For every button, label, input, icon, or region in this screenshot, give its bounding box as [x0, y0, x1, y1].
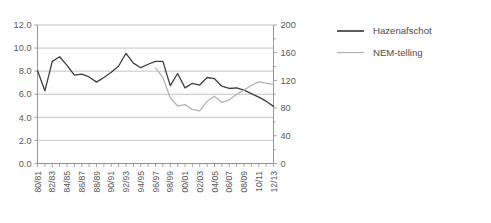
x-axis-tick-label: 86/87: [77, 171, 87, 193]
legend-label: NEM-telling: [373, 47, 423, 58]
x-axis-tick-label: 84/85: [62, 171, 72, 193]
x-axis-tick-label: 02/03: [195, 171, 205, 193]
x-axis-tick-label: 04/05: [210, 171, 220, 193]
x-axis-tick-label: 08/09: [239, 171, 249, 193]
x-axis-tick-label: 06/07: [224, 171, 234, 193]
x-axis-tick-label: 00/01: [180, 171, 190, 193]
right-axis-tick-labels: 04080120160200: [281, 20, 296, 169]
x-axis-tick-label: 82/83: [47, 171, 57, 193]
chart-legend: HazenafschotNEM-telling: [337, 25, 432, 58]
chart-container: 0.02.04.06.08.010.012.0 04080120160200 8…: [0, 0, 491, 223]
series-line-hazenafschot: [38, 53, 274, 106]
x-axis-tick-label: 92/93: [121, 171, 131, 193]
right-axis-tick-label: 40: [281, 131, 291, 141]
left-axis-tick-label: 6.0: [19, 89, 32, 99]
right-axis-tick-label: 120: [281, 76, 296, 86]
x-axis-tick-label: 90/91: [106, 171, 116, 193]
x-axis-tick-label: 88/89: [92, 171, 102, 193]
left-axis-tick-label: 0.0: [19, 159, 32, 169]
right-axis-tick-label: 0: [281, 159, 286, 169]
x-axis-tick-label: 94/95: [136, 171, 146, 193]
axis-tickmarks: [34, 25, 277, 167]
x-axis-tick-label: 96/97: [151, 171, 161, 193]
left-axis-tick-label: 10.0: [14, 43, 32, 53]
x-axis-tick-label: 98/99: [165, 171, 175, 193]
x-axis-tick-labels: 80/8182/8384/8586/8788/8990/9192/9394/95…: [33, 171, 279, 193]
legend-label: Hazenafschot: [373, 25, 432, 36]
left-axis-tick-labels: 0.02.04.06.08.010.012.0: [14, 20, 32, 169]
x-axis-tick-label: 80/81: [33, 171, 43, 193]
x-axis-tick-label: 10/11: [254, 171, 264, 192]
right-axis-tick-label: 80: [281, 103, 291, 113]
series-line-nem-telling: [156, 68, 274, 111]
right-axis-tick-label: 200: [281, 20, 296, 30]
data-series: [38, 53, 274, 111]
right-axis-tick-label: 160: [281, 48, 296, 58]
line-chart: 0.02.04.06.08.010.012.0 04080120160200 8…: [0, 0, 491, 223]
left-axis-tick-label: 12.0: [14, 20, 32, 30]
x-axis-tick-label: 12/13: [269, 171, 279, 193]
gridlines: [38, 25, 274, 164]
left-axis-tick-label: 2.0: [19, 136, 32, 146]
left-axis-tick-label: 8.0: [19, 66, 32, 76]
left-axis-tick-label: 4.0: [19, 113, 32, 123]
